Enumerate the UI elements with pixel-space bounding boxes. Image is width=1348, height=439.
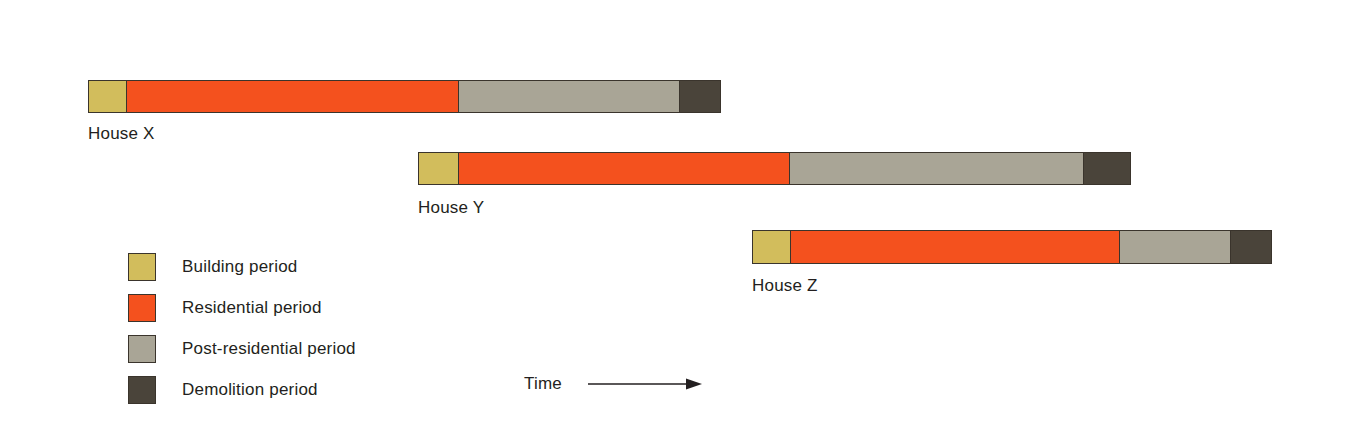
legend-swatch-post-residential-icon	[128, 335, 156, 363]
bar-segment-post-residential-period	[790, 153, 1084, 184]
bar-label-house-y: House Y	[418, 198, 484, 218]
bar-segment-demolition-period	[1231, 231, 1271, 263]
legend-label-post-residential: Post-residential period	[182, 339, 356, 359]
bar-segment-building-period	[419, 153, 459, 184]
bar-segment-building-period	[89, 81, 127, 112]
legend-swatch-residential-icon	[128, 294, 156, 322]
bar-segment-demolition-period	[1084, 153, 1130, 184]
bar-segment-residential-period	[127, 81, 459, 112]
bar-segment-building-period	[753, 231, 791, 263]
bar-label-house-x: House X	[88, 124, 155, 144]
legend-swatch-demolition-icon	[128, 376, 156, 404]
bar-segment-residential-period	[459, 153, 790, 184]
legend-label-building: Building period	[182, 257, 297, 277]
bar-segment-post-residential-period	[1120, 231, 1232, 263]
time-axis-label: Time	[524, 374, 562, 394]
legend: Building period Residential period Post-…	[128, 251, 356, 415]
bar-segment-demolition-period	[680, 81, 720, 112]
legend-label-residential: Residential period	[182, 298, 322, 318]
bar-segment-residential-period	[791, 231, 1120, 263]
legend-item-demolition: Demolition period	[128, 374, 356, 406]
bar-segment-post-residential-period	[459, 81, 680, 112]
legend-swatch-building-icon	[128, 253, 156, 281]
legend-label-demolition: Demolition period	[182, 380, 318, 400]
legend-item-building: Building period	[128, 251, 356, 283]
figure-frame: House XHouse YHouse Z Building period Re…	[40, 27, 1308, 413]
legend-item-post-residential: Post-residential period	[128, 333, 356, 365]
timeline-bar	[418, 152, 1131, 185]
figure-root: House XHouse YHouse Z Building period Re…	[0, 0, 1348, 439]
right-arrow-icon	[588, 376, 704, 392]
time-axis-annotation: Time	[524, 374, 704, 394]
timeline-bar	[752, 230, 1272, 264]
bar-label-house-z: House Z	[752, 276, 818, 296]
timeline-bar	[88, 80, 721, 113]
legend-item-residential: Residential period	[128, 292, 356, 324]
